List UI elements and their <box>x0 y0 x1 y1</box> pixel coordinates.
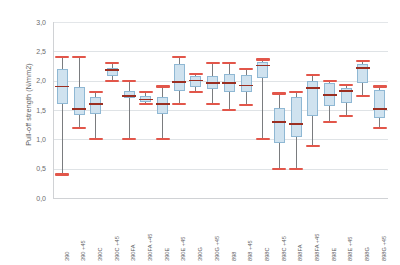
box-plot-chart: Pull-off strength (N/mm2) 3,02,52,01,51,… <box>0 0 400 265</box>
x-tick-label: 898C <box>264 199 270 261</box>
y-tick-label: 3,0 <box>10 19 46 26</box>
y-tick-label: 2,0 <box>10 77 46 84</box>
x-tick-label: 390FA +45 <box>147 199 153 261</box>
cap-min <box>206 103 220 105</box>
y-tick-label: 2,5 <box>10 48 46 55</box>
median-line <box>189 80 203 82</box>
median-line <box>206 82 220 84</box>
cap-min <box>222 109 236 111</box>
whisker-upper <box>162 87 163 98</box>
x-tick-label: 898FA <box>297 199 303 261</box>
box-plot-item <box>104 22 120 198</box>
box-plot-item <box>205 22 221 198</box>
cap-min <box>239 104 253 106</box>
median-line <box>373 108 387 110</box>
cap-max <box>55 56 69 58</box>
cap-max <box>323 80 337 82</box>
box-plot-item <box>221 22 237 198</box>
median-line <box>72 108 86 110</box>
x-tick-label: 898G +45 <box>381 199 387 261</box>
x-tick-label: 898C +45 <box>281 199 287 261</box>
box-plot-item <box>171 22 187 198</box>
whisker-lower <box>212 89 213 104</box>
median-line <box>139 99 153 101</box>
whisker-upper <box>62 57 63 69</box>
x-tick-label: 898E <box>331 199 337 261</box>
x-tick-label: 390 <box>64 199 70 261</box>
whisker-upper <box>129 81 130 92</box>
median-line <box>239 85 253 87</box>
whisker-upper <box>229 63 230 74</box>
box-plot-item <box>322 22 338 198</box>
box-plot-item <box>54 22 70 198</box>
whisker-lower <box>346 103 347 116</box>
median-line <box>306 87 320 89</box>
box-iqr <box>74 87 85 115</box>
cap-min <box>289 168 303 170</box>
cap-max <box>105 62 119 64</box>
box-plot-item <box>188 22 204 198</box>
box-iqr <box>291 97 302 137</box>
x-tick-label: 898 +45 <box>247 199 253 261</box>
cap-max <box>239 68 253 70</box>
cap-min <box>55 173 69 175</box>
cap-min <box>156 138 170 140</box>
cap-max <box>272 92 286 94</box>
median-line <box>272 121 286 123</box>
median-line <box>55 86 69 88</box>
x-tick-label: 898FA +45 <box>314 199 320 261</box>
box-plot-item <box>121 22 137 198</box>
whisker-upper <box>179 57 180 64</box>
x-tick-label: 390G <box>197 199 203 261</box>
box-plot-item <box>355 22 371 198</box>
median-line <box>339 90 353 92</box>
cap-min <box>89 138 103 140</box>
cap-max <box>156 85 170 87</box>
median-line <box>156 103 170 105</box>
box-iqr <box>174 64 185 91</box>
x-axis-tick-labels: 390390 +45390C390C +45390FA390FA +45390E… <box>53 200 387 263</box>
whisker-lower <box>279 143 280 169</box>
plot-area <box>53 22 388 199</box>
y-tick-label: 0,5 <box>10 165 46 172</box>
whisker-lower <box>95 114 96 140</box>
cap-min <box>306 145 320 147</box>
median-line <box>122 95 136 97</box>
x-tick-label: 898 <box>231 199 237 261</box>
x-tick-label: 390G +45 <box>214 199 220 261</box>
box-plot-item <box>271 22 287 198</box>
median-line <box>323 94 337 96</box>
whisker-lower <box>296 137 297 169</box>
whisker-lower <box>229 92 230 110</box>
x-tick-label: 390C +45 <box>114 199 120 261</box>
cap-min <box>105 80 119 82</box>
box-iqr <box>90 97 101 113</box>
x-tick-label: 390E <box>164 199 170 261</box>
x-tick-label: 898G <box>364 199 370 261</box>
cap-min <box>139 103 153 105</box>
box-plot-item <box>255 22 271 198</box>
whisker-lower <box>129 98 130 139</box>
box-plot-item <box>305 22 321 198</box>
y-tick-label: 1,5 <box>10 107 46 114</box>
box-plot-item <box>372 22 388 198</box>
median-line <box>289 123 303 125</box>
x-tick-label: 390C <box>97 199 103 261</box>
cap-max <box>122 80 136 82</box>
box-plot-item <box>71 22 87 198</box>
box-plot-item <box>138 22 154 198</box>
whisker-lower <box>329 106 330 121</box>
cap-max <box>356 60 370 62</box>
whisker-lower <box>79 115 80 128</box>
cap-min <box>72 127 86 129</box>
cap-max <box>72 56 86 58</box>
cap-max <box>222 62 236 64</box>
whisker-lower <box>262 78 263 139</box>
box-plot-item <box>338 22 354 198</box>
median-line <box>172 81 186 83</box>
median-line <box>222 82 236 84</box>
x-tick-label: 898E +45 <box>347 199 353 261</box>
cap-min <box>189 91 203 93</box>
whisker-upper <box>279 94 280 108</box>
whisker-lower <box>62 104 63 174</box>
